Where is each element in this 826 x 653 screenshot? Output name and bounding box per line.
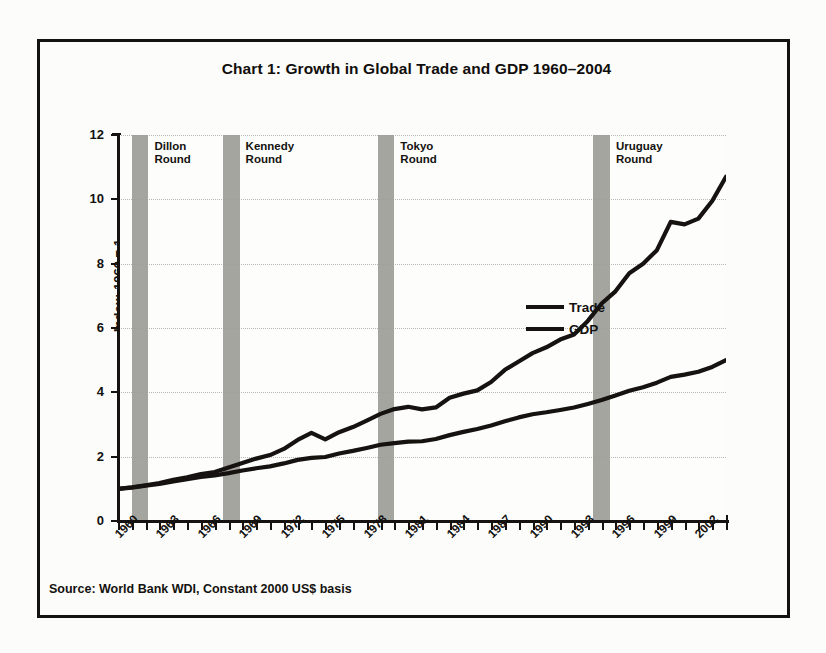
y-tick-mark: [111, 198, 119, 200]
series-line-gdp: [118, 360, 726, 489]
y-tick-mark: [111, 327, 119, 329]
legend-swatch-icon: [526, 327, 564, 331]
x-tick-mark: [146, 523, 148, 530]
legend-label: Trade: [569, 300, 605, 315]
x-tick-mark: [643, 523, 645, 530]
x-tick-mark: [436, 523, 438, 530]
label-uruguay-round: Uruguay Round: [616, 140, 663, 166]
y-tick-mark: [111, 520, 119, 522]
legend: TradeGDP: [526, 296, 605, 340]
legend-item-gdp[interactable]: GDP: [526, 318, 605, 340]
y-tick-label: 2: [78, 449, 104, 464]
label-tokyo-round: Tokyo Round: [400, 140, 436, 166]
x-tick-mark: [726, 523, 728, 530]
plot-inner: [118, 135, 726, 521]
y-tick-mark: [111, 456, 119, 458]
y-tick-label: 4: [78, 384, 104, 399]
x-tick-mark: [270, 523, 272, 530]
x-tick-mark: [353, 523, 355, 530]
x-tick-mark: [311, 523, 313, 530]
x-tick-mark: [394, 523, 396, 530]
y-tick-label: 12: [78, 127, 104, 142]
chart-frame: Chart 1: Growth in Global Trade and GDP …: [37, 39, 790, 618]
x-tick-mark: [602, 523, 604, 530]
y-tick-mark: [111, 134, 119, 136]
y-tick-mark: [111, 391, 119, 393]
plot-canvas: [118, 135, 726, 521]
source-note: Source: World Bank WDI, Constant 2000 US…: [49, 582, 352, 596]
y-tick-label: 0: [78, 513, 104, 528]
y-tick-label: 8: [78, 256, 104, 271]
series-lines: [118, 135, 726, 521]
label-dillon-round: Dillon Round: [154, 140, 190, 166]
x-tick-mark: [560, 523, 562, 530]
y-tick-label: 6: [78, 320, 104, 335]
x-tick-mark: [229, 523, 231, 530]
y-tick-mark: [111, 263, 119, 265]
chart-page: Chart 1: Growth in Global Trade and GDP …: [0, 0, 826, 653]
legend-item-trade[interactable]: Trade: [526, 296, 605, 318]
x-tick-mark: [477, 523, 479, 530]
legend-swatch-icon: [526, 305, 564, 309]
x-tick-mark: [187, 523, 189, 530]
plot-area: Index: 1960 = 1 024681012 19601963196619…: [40, 42, 793, 621]
legend-label: GDP: [569, 322, 598, 337]
y-tick-label: 10: [78, 191, 104, 206]
x-tick-mark: [685, 523, 687, 530]
label-kennedy-round: Kennedy Round: [246, 140, 295, 166]
x-tick-mark: [519, 523, 521, 530]
